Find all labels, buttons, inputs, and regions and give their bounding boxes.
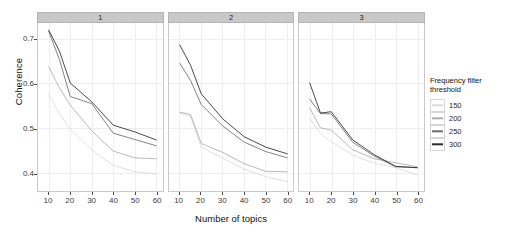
x-tick-label: 20 <box>196 196 205 205</box>
legend-key-swatch <box>430 99 445 112</box>
x-tick-label: 10 <box>305 196 314 205</box>
series-line-300 <box>179 45 286 154</box>
x-tick-label: 10 <box>174 196 183 205</box>
legend-title: Frequency filter threshold <box>430 76 502 95</box>
x-tick-mark <box>48 192 49 195</box>
x-tick-mark <box>92 192 93 195</box>
x-tick-label: 50 <box>131 196 140 205</box>
legend-item-label: 250 <box>449 128 462 136</box>
x-tick-label: 60 <box>153 196 162 205</box>
y-tick-label: 0.4 <box>23 169 34 178</box>
facet-panel-2: 2 <box>168 12 295 192</box>
y-tick-label: 0.5 <box>23 124 34 133</box>
series-line-250 <box>310 99 417 168</box>
x-tick-mark <box>288 192 289 195</box>
legend-key-swatch <box>430 112 445 125</box>
x-tick-mark <box>397 192 398 195</box>
x-tick-mark <box>135 192 136 195</box>
series-line-250 <box>179 63 286 158</box>
x-axis-cell: 102030405060 <box>298 192 425 214</box>
x-tick-mark <box>266 192 267 195</box>
series-line-200 <box>49 67 156 159</box>
x-tick-label: 40 <box>109 196 118 205</box>
legend-key-line <box>432 105 443 106</box>
legend-key-line <box>432 118 443 119</box>
plot-area <box>37 23 164 192</box>
y-tick-label: 0.6 <box>23 79 34 88</box>
x-tick-label: 60 <box>414 196 423 205</box>
x-tick-label: 30 <box>87 196 96 205</box>
x-tick-label: 60 <box>283 196 292 205</box>
legend-item-label: 150 <box>449 102 462 110</box>
legend-key-swatch <box>430 125 445 138</box>
x-tick-mark <box>157 192 158 195</box>
series-lines <box>169 23 294 191</box>
series-lines <box>299 23 424 191</box>
x-tick-label: 40 <box>370 196 379 205</box>
y-tick-label: 0.7 <box>23 34 34 43</box>
x-tick-mark <box>113 192 114 195</box>
series-lines <box>38 23 163 191</box>
series-line-300 <box>49 30 156 140</box>
facet-panels: 123 <box>37 12 425 192</box>
legend-title-line-1: Frequency filter <box>430 76 502 85</box>
facet-panel-1: 1 <box>37 12 164 192</box>
legend-key-swatch <box>430 138 445 151</box>
x-tick-label: 50 <box>261 196 270 205</box>
x-tick-mark <box>353 192 354 195</box>
x-axis-title: Number of topics <box>37 213 425 224</box>
legend-item-300: 300 <box>430 138 506 151</box>
x-tick-label: 30 <box>218 196 227 205</box>
legend-item-label: 200 <box>449 115 462 123</box>
x-tick-label: 40 <box>240 196 249 205</box>
series-line-200 <box>179 112 286 172</box>
legend-item-200: 200 <box>430 112 506 125</box>
x-tick-label: 20 <box>327 196 336 205</box>
facet-strip-label: 3 <box>298 12 425 23</box>
x-tick-mark <box>222 192 223 195</box>
chart-root: Coherence 0.70.60.50.4 123 1020304050601… <box>0 0 506 236</box>
y-axis-ticks: 0.70.60.50.4 <box>0 0 34 236</box>
x-tick-label: 10 <box>43 196 52 205</box>
x-tick-mark <box>70 192 71 195</box>
x-axis-cell: 102030405060 <box>37 192 164 214</box>
legend-item-150: 150 <box>430 99 506 112</box>
series-line-300 <box>310 83 417 168</box>
x-tick-label: 30 <box>348 196 357 205</box>
legend-key-line <box>432 131 443 132</box>
series-line-250 <box>49 32 156 146</box>
x-tick-mark <box>200 192 201 195</box>
legend-item-250: 250 <box>430 125 506 138</box>
plot-area <box>168 23 295 192</box>
x-tick-mark <box>375 192 376 195</box>
x-tick-mark <box>179 192 180 195</box>
x-tick-label: 50 <box>392 196 401 205</box>
x-tick-label: 20 <box>65 196 74 205</box>
legend-items: 150200250300 <box>430 99 506 151</box>
legend-item-label: 300 <box>449 141 462 149</box>
legend-title-line-2: threshold <box>430 85 502 94</box>
legend-key-line <box>432 144 443 145</box>
facet-strip-label: 2 <box>168 12 295 23</box>
legend: Frequency filter threshold 150200250300 <box>430 76 506 151</box>
plot-area <box>298 23 425 192</box>
x-axis-ticks: 102030405060102030405060102030405060 <box>37 192 425 214</box>
facet-panel-3: 3 <box>298 12 425 192</box>
facet-strip-label: 1 <box>37 12 164 23</box>
x-axis-cell: 102030405060 <box>168 192 295 214</box>
x-tick-mark <box>418 192 419 195</box>
x-tick-mark <box>244 192 245 195</box>
x-tick-mark <box>331 192 332 195</box>
x-tick-mark <box>309 192 310 195</box>
